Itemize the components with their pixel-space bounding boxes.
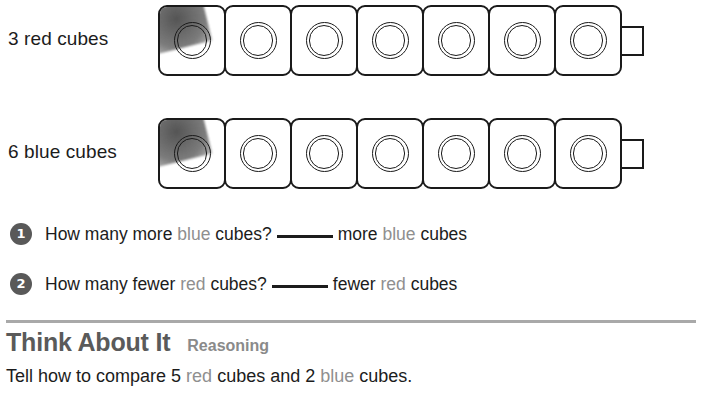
- question-2-color-word-2: red: [380, 274, 405, 294]
- cube: [488, 5, 556, 76]
- blue-cube-train: [158, 118, 644, 189]
- cube: [290, 5, 358, 76]
- think-about-it-body: Tell how to compare 5 red cubes and 2 bl…: [6, 366, 412, 387]
- section-divider: [6, 320, 696, 323]
- cube: [356, 5, 424, 76]
- cube-stud-icon: [372, 135, 409, 172]
- question-2-color-word-1: red: [180, 274, 205, 294]
- cube-stud-icon: [438, 135, 475, 172]
- question-1-segment-2: cubes?: [215, 224, 271, 244]
- question-item-1: 1 How many more blue cubes?more blue cub…: [10, 222, 467, 245]
- question-2-segment-2: cubes?: [210, 274, 266, 294]
- red-cube-train: [158, 5, 644, 76]
- think-about-it-heading: Think About It Reasoning: [6, 328, 269, 357]
- cube: [422, 118, 490, 189]
- question-text-1: How many more blue cubes?more blue cubes: [45, 222, 467, 245]
- think-body-color-word-1: red: [186, 366, 212, 386]
- cube-stud-icon: [306, 135, 343, 172]
- question-1-segment-4: cubes: [420, 224, 467, 244]
- row-label-blue: 6 blue cubes: [8, 141, 117, 163]
- question-2-segment-3: fewer: [333, 274, 376, 294]
- question-2-segment-1: How many fewer: [45, 274, 175, 294]
- think-body-segment-3: cubes.: [359, 366, 412, 386]
- row-label-red: 3 red cubes: [8, 28, 108, 50]
- question-1-color-word-2: blue: [382, 224, 415, 244]
- question-1-color-word-1: blue: [177, 224, 210, 244]
- cube: [554, 118, 622, 189]
- question-item-2: 2 How many fewer red cubes?fewer red cub…: [10, 272, 457, 295]
- answer-blank[interactable]: [277, 222, 333, 238]
- question-2-segment-4: cubes: [411, 274, 458, 294]
- cube-stud-icon: [174, 135, 211, 172]
- question-text-2: How many fewer red cubes?fewer red cubes: [45, 272, 457, 295]
- cube-stud-icon: [504, 135, 541, 172]
- question-number-badge: 2: [10, 273, 32, 295]
- think-body-segment-2: cubes and 2: [217, 366, 315, 386]
- question-1-segment-1: How many more: [45, 224, 172, 244]
- cube: [488, 118, 556, 189]
- cube: [554, 5, 622, 76]
- cube: [290, 118, 358, 189]
- cube-stud-icon: [240, 22, 277, 59]
- cube: [158, 5, 226, 76]
- cube: [224, 5, 292, 76]
- cube: [422, 5, 490, 76]
- cube-train-row-blue: 6 blue cubes: [0, 115, 703, 195]
- question-number-badge: 1: [10, 223, 32, 245]
- think-body-color-word-2: blue: [320, 366, 354, 386]
- cube-train-row-red: 3 red cubes: [0, 2, 703, 82]
- cube-stud-icon: [306, 22, 343, 59]
- cube-stud-icon: [570, 135, 607, 172]
- think-body-segment-1: Tell how to compare 5: [6, 366, 181, 386]
- think-about-it-subtitle: Reasoning: [187, 337, 269, 355]
- cube-stud-icon: [372, 22, 409, 59]
- cube: [224, 118, 292, 189]
- cube-stud-icon: [240, 135, 277, 172]
- cube-stud-icon: [438, 22, 475, 59]
- cube: [158, 118, 226, 189]
- cube-stud-icon: [174, 22, 211, 59]
- cube-stud-icon: [504, 22, 541, 59]
- cube-stud-icon: [570, 22, 607, 59]
- question-1-segment-3: more: [338, 224, 378, 244]
- think-about-it-title: Think About It: [6, 328, 170, 357]
- answer-blank[interactable]: [272, 272, 328, 288]
- cube: [356, 118, 424, 189]
